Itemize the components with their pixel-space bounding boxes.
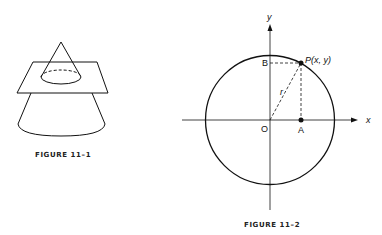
radius-line-dashed — [270, 63, 301, 120]
point-a-dot — [299, 118, 304, 123]
point-p-label: P(x, y) — [305, 55, 331, 65]
figure-11-2-caption: FIGURE 11–2 — [244, 221, 300, 229]
figures-canvas: y x O A B P(x, y) r — [0, 0, 382, 235]
figure-11-2-drawing: y x O A B P(x, y) r — [182, 12, 371, 210]
cone-lower-right-edge — [92, 93, 105, 124]
point-p-dot — [299, 61, 304, 66]
x-axis-label: x — [365, 115, 371, 125]
x-axis-arrow-icon — [351, 118, 358, 123]
y-axis-arrow-icon — [268, 24, 273, 31]
cone-lower-left-edge — [18, 93, 31, 124]
figure-11-1-drawing — [17, 42, 108, 136]
figure-11-1-caption: FIGURE 11–1 — [35, 151, 91, 159]
cone-base-arc — [18, 124, 105, 136]
point-b-label: B — [262, 58, 268, 68]
point-a-label: A — [298, 125, 304, 135]
origin-label: O — [261, 124, 268, 134]
y-axis-label: y — [266, 12, 272, 22]
cutting-plane — [17, 62, 108, 93]
